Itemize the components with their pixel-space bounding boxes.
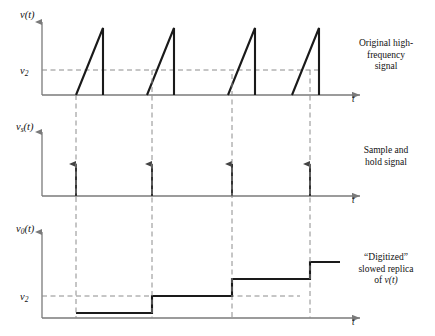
signal-sampling-figure: v(t) t v2 vs(t) t v0(t) t v2 Original hi… bbox=[0, 0, 435, 336]
caption-digitized: “Digitized” slowed replica of v(t) bbox=[334, 252, 435, 287]
caption-digitized-line-3: of v(t) bbox=[334, 275, 435, 287]
threshold-label-digitized: v2 bbox=[20, 291, 29, 304]
x-axis-label-digitized: t bbox=[352, 317, 355, 327]
sample-correlation-lines bbox=[76, 70, 310, 318]
panel-digitized bbox=[42, 232, 360, 318]
caption-sample-hold: Sample and hold signal bbox=[334, 145, 435, 168]
panel-original bbox=[42, 22, 360, 95]
y-axis-label-sample-hold: vs(t) bbox=[16, 121, 34, 134]
y-axis-label-digitized: v0(t) bbox=[16, 223, 35, 236]
caption-digitized-line-2: slowed replica bbox=[334, 264, 435, 276]
caption-original-signal: Original high- frequency signal bbox=[334, 38, 435, 73]
sawtooth-cycle-1 bbox=[76, 28, 103, 95]
threshold-label-original: v2 bbox=[20, 65, 29, 78]
caption-original-line-2: frequency bbox=[334, 50, 435, 62]
caption-digitized-line-1: “Digitized” bbox=[334, 252, 435, 264]
sawtooth-cycle-2 bbox=[147, 28, 174, 95]
x-axis-label-original: t bbox=[352, 94, 355, 104]
sawtooth-cycle-4 bbox=[292, 28, 319, 95]
y-axis-label-original: v(t) bbox=[20, 9, 35, 21]
panel-sample-hold bbox=[42, 132, 360, 196]
x-axis-label-sample-hold: t bbox=[352, 195, 355, 205]
caption-original-line-1: Original high- bbox=[334, 38, 435, 50]
caption-digitized-suffix: (t) bbox=[389, 275, 398, 285]
caption-original-line-3: signal bbox=[334, 61, 435, 73]
caption-digitized-prefix: of bbox=[374, 275, 384, 285]
caption-sample-hold-line-1: Sample and bbox=[334, 145, 435, 157]
staircase-waveform bbox=[76, 262, 340, 313]
caption-sample-hold-line-2: hold signal bbox=[334, 157, 435, 169]
